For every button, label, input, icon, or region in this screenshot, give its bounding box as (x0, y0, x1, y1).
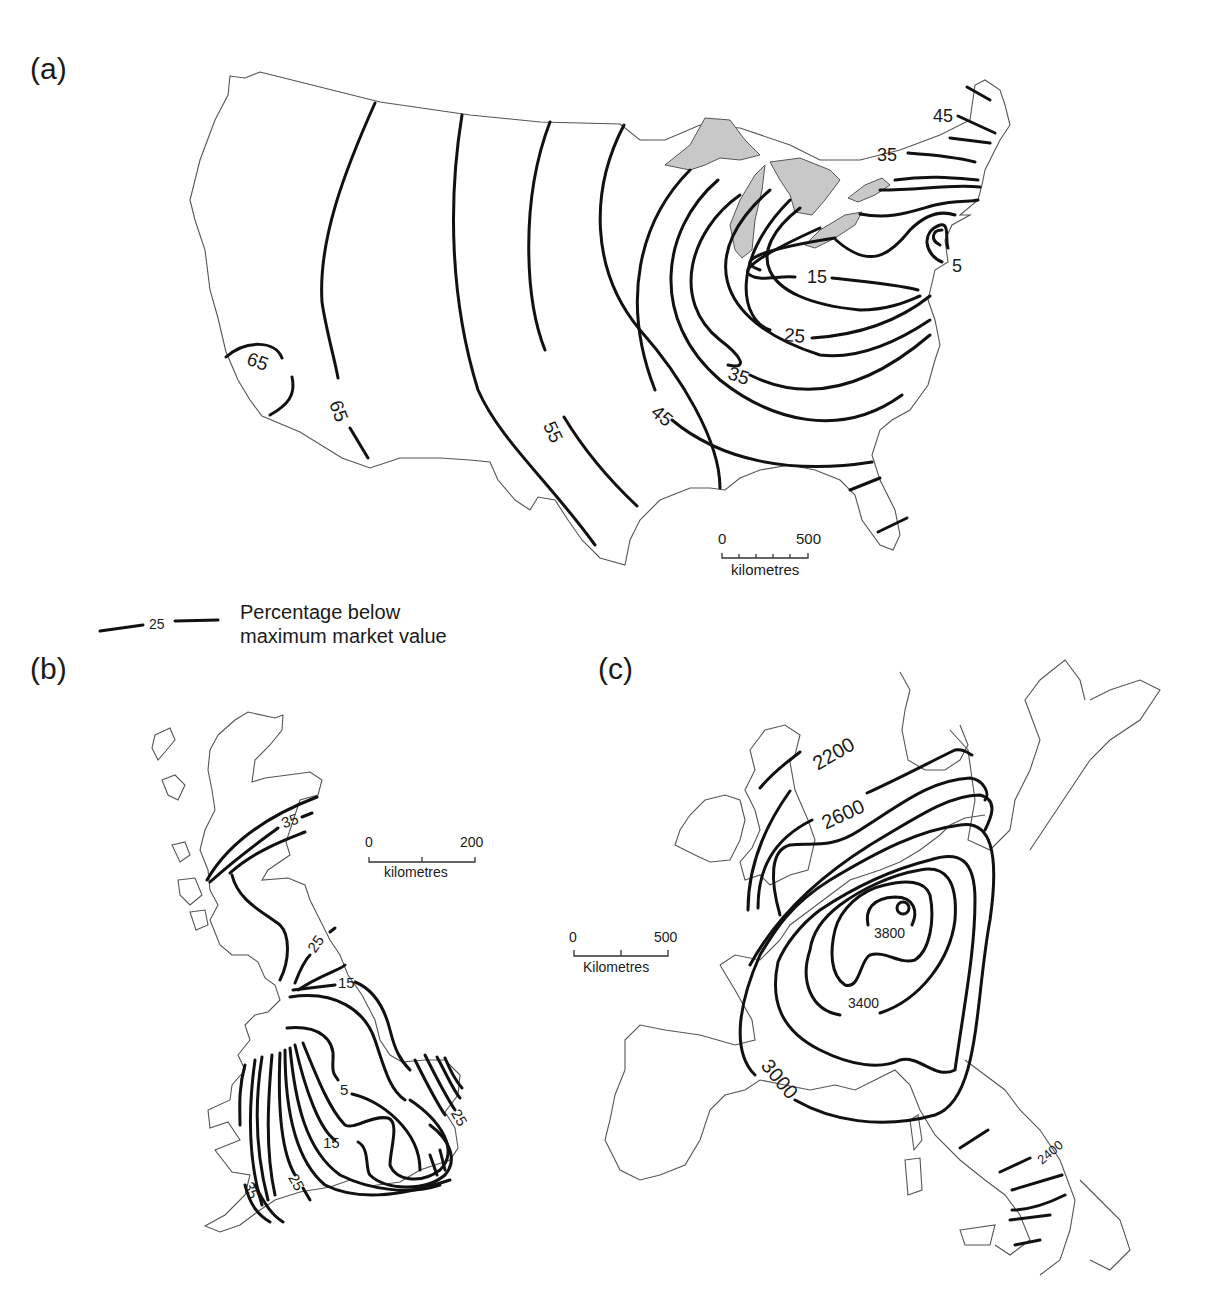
britain-isles-5 (190, 910, 208, 930)
europe-greece (1080, 1180, 1130, 1270)
label-b-15-s: 15 (323, 1134, 340, 1151)
label-c-3400: 3400 (848, 995, 879, 1011)
contour-c-2400-5 (1010, 1215, 1050, 1220)
europe-ireland (675, 795, 745, 862)
legend-line-right (175, 620, 218, 621)
label-c-3000: 3000 (757, 1055, 802, 1103)
britain-isles-1 (152, 728, 175, 760)
europe-finland (1030, 680, 1160, 850)
britain-isles-4 (178, 878, 202, 905)
label-b-15-n: 15 (338, 974, 355, 991)
europe-britain (740, 725, 815, 885)
label-c-2600: 2600 (818, 795, 868, 834)
scale-b-end: 200 (460, 834, 483, 850)
scale-a-unit: kilometres (731, 561, 799, 578)
legend-line-left (100, 625, 143, 631)
europe-sicily (960, 1225, 995, 1245)
europe-sardinia (905, 1158, 922, 1195)
label-a-5: 5 (952, 256, 962, 276)
contour-c-peak (897, 902, 909, 914)
scale-c-unit: Kilometres (583, 959, 649, 975)
map-europe: 2200 2600 3800 3400 3000 2400 (605, 660, 1160, 1275)
britain-isles-3 (172, 842, 190, 862)
contour-c-2400-4 (1012, 1195, 1065, 1210)
scale-a-start: 0 (718, 530, 726, 547)
contour-c-2600 (867, 750, 972, 793)
map-britain: 35 25 15 5 15 25 25 35 (152, 712, 471, 1232)
contour-c-2400-3 (1012, 1175, 1062, 1190)
label-a-35-ne: 35 (877, 145, 897, 165)
label-a-45-ne: 45 (933, 106, 953, 126)
contour-c-2400-6 (1015, 1240, 1040, 1245)
label-a-15: 15 (807, 267, 827, 287)
contour-c-2400-1 (960, 1130, 988, 1148)
legend-description: Percentage below maximum market value (240, 600, 447, 648)
label-c-3800: 3800 (874, 925, 905, 941)
scale-c-start: 0 (569, 929, 577, 945)
legend-line2: maximum market value (240, 624, 447, 648)
scale-c-end: 500 (654, 929, 677, 945)
scale-bar-b (369, 857, 475, 862)
britain-isles-2 (162, 775, 185, 800)
europe-norway (900, 672, 968, 770)
scale-b-unit: kilometres (384, 864, 448, 880)
map-usa: 65 65 55 45 35 25 15 5 35 45 (190, 72, 1010, 565)
scale-b-start: 0 (365, 834, 373, 850)
legend: 25 (100, 616, 218, 632)
legend-line1: Percentage below (240, 600, 447, 624)
europe-continent (605, 815, 1030, 1255)
contour-c-3400 (806, 869, 955, 1015)
scale-a-end: 500 (796, 530, 821, 547)
label-c-2200: 2200 (809, 733, 859, 774)
scale-bar-a (722, 553, 808, 558)
label-b-5: 5 (340, 1081, 348, 1098)
scale-bar-c (574, 950, 668, 956)
legend-sample-value: 25 (149, 616, 165, 632)
contour-c-2400-2 (1000, 1158, 1030, 1172)
figure-canvas: 65 65 55 45 35 25 15 5 35 45 25 (0, 0, 1212, 1294)
label-a-25: 25 (783, 324, 806, 347)
